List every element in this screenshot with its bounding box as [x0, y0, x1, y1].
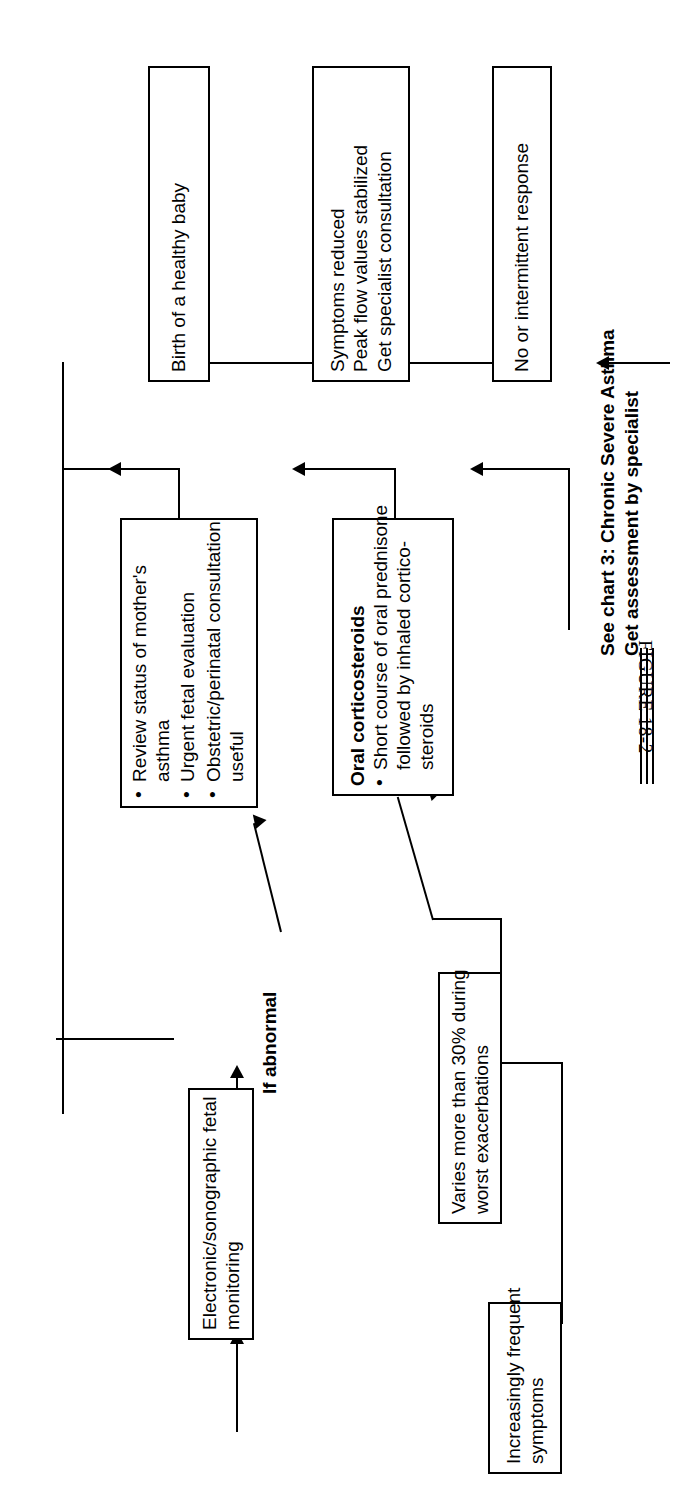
bullet-text-line: followed by inhaled cortico- — [393, 541, 414, 770]
bullet-text-line: useful — [226, 731, 247, 782]
node-heading: Oral corticosteroids — [346, 528, 369, 786]
node-text-line: worst exacerbations — [470, 982, 493, 1214]
list-item: Short course of oral prednisone followed… — [369, 528, 439, 786]
bullet-text-line: Short course of oral prednisone — [370, 505, 391, 770]
connector-to-review-arrowhead — [247, 810, 266, 829]
connector-to-review-diagonal — [253, 823, 282, 932]
label-see-chart-3-line2: Get assessment by specialist — [620, 329, 644, 656]
node-bullet-list: Short course of oral prednisone followed… — [369, 528, 441, 786]
node-oral-corticosteroids: Oral corticosteroids Short course of ora… — [332, 518, 454, 796]
connector-review-to-birth-arrowhead — [108, 462, 121, 476]
figure-caption: FIGURE 18-2 — [640, 640, 680, 860]
node-text-line: Get specialist consultation — [373, 76, 396, 372]
bullet-text-line: Urgent fetal evaluation — [177, 592, 198, 782]
list-item: Urgent fetal evaluation — [176, 528, 199, 798]
connector-oral-to-symptoms-arrowhead — [292, 462, 305, 476]
list-item: Review status of mother's asthma — [128, 528, 174, 798]
node-text-line: Peak flow values stabilized — [349, 76, 372, 372]
node-review-status-of-mothers-asthma: Review status of mother's asthma Urgent … — [120, 518, 258, 808]
node-bullet-list: Review status of mother's asthma Urgent … — [128, 528, 250, 798]
connector-incoming-line — [236, 1342, 238, 1432]
label-see-chart-3-line1: See chart 3: Chronic Severe Asthma — [596, 329, 620, 656]
connector-oral-to-no-rail — [568, 468, 570, 630]
bullet-text-line: Review status of mother's — [129, 565, 150, 782]
connector-review-to-birth-line — [62, 468, 180, 470]
label-if-abnormal: If abnormal — [258, 992, 282, 1094]
bullet-text-line: steroids — [416, 703, 437, 770]
node-text-line: Birth of a healthy baby — [167, 76, 190, 372]
bullet-text-line: asthma — [152, 720, 173, 782]
node-text-line: Increasingly frequent — [502, 1312, 525, 1464]
node-text-line: symptoms — [525, 1312, 548, 1464]
node-text-line: Electronic/sonographic fetal — [198, 1098, 221, 1330]
bullet-text-line: Obstetric/perinatal consultation — [203, 521, 224, 782]
node-text-line: No or intermittent response — [510, 76, 533, 372]
connector-monitoring-arrowhead — [230, 1065, 244, 1078]
node-no-or-intermittent-response: No or intermittent response — [492, 66, 552, 382]
connector-varies-to-oral-diagonal — [397, 797, 434, 921]
node-varies-more-than-30-percent: Varies more than 30% during worst exacer… — [438, 972, 502, 1224]
node-electronic-sonographic-fetal-monitoring: Electronic/sonographic fetal monitoring — [188, 1088, 254, 1340]
flowchart-canvas: Increasingly frequent symptoms Varies mo… — [0, 0, 686, 1492]
connector-top-rail — [62, 362, 64, 1114]
node-text-line: Symptoms reduced — [326, 76, 349, 372]
figure-caption-text: FIGURE 18-2 — [634, 640, 656, 754]
node-text-line: Varies more than 30% during — [447, 982, 470, 1214]
list-item: Obstetric/perinatal consultation useful — [202, 528, 248, 798]
node-birth-of-a-healthy-baby: Birth of a healthy baby — [148, 66, 210, 382]
connector-abnormal-riser — [56, 1038, 174, 1040]
node-text-line: monitoring — [221, 1098, 244, 1330]
connector-varies-to-oral-riser — [432, 918, 502, 920]
label-see-chart-3: See chart 3: Chronic Severe Asthma Get a… — [596, 329, 644, 656]
connector-oral-to-no-line — [478, 468, 570, 470]
connector-oral-to-no-arrowhead — [470, 462, 483, 476]
node-increasingly-frequent-symptoms: Increasingly frequent symptoms — [488, 1302, 562, 1474]
node-symptoms-reduced: Symptoms reduced Peak flow values stabil… — [312, 66, 410, 382]
connector-oral-to-symptoms-line — [300, 468, 396, 470]
connector-frequent-to-rail — [561, 1062, 563, 1324]
